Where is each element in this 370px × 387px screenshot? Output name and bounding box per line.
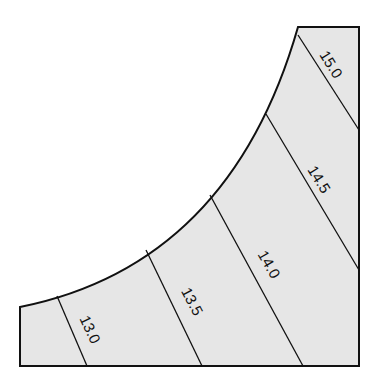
region-shape <box>20 27 359 366</box>
contour-diagram: 15.0 14.5 14.0 13.5 13.0 <box>0 0 370 387</box>
